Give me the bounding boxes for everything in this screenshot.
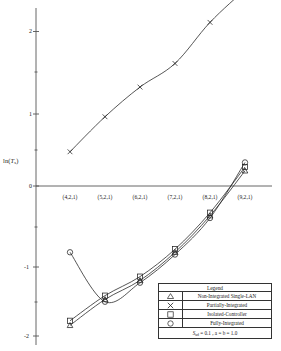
legend-param-ab: a = b = 1.0: [215, 330, 237, 336]
x-data-point: [68, 149, 73, 154]
x-marker-icon: [159, 301, 183, 309]
x-data-point: [103, 114, 108, 119]
series-line: [70, 0, 245, 152]
series-layer: [67, 0, 248, 328]
x-data-point: [138, 85, 143, 90]
circle-marker-icon: [159, 319, 183, 327]
legend-param-value: = 0.1 ,: [199, 330, 214, 336]
series-line: [70, 162, 245, 302]
square-marker-icon: [159, 310, 183, 318]
legend-parameters: Sad = 0.1 , a = b = 1.0: [159, 328, 271, 338]
legend-row-isolated-controller: Isolated-Controller: [159, 310, 271, 319]
triangle-icon: [159, 292, 183, 300]
legend-row-partially-integrated: Partially-Integrated: [159, 301, 271, 310]
legend-label-isolated-controller: Isolated-Controller: [183, 310, 271, 318]
x-data-point: [173, 61, 178, 66]
x-data-point: [208, 20, 213, 25]
legend-label-non-integrated-single-lan: Non-Integrated Single-LAN: [183, 292, 271, 300]
legend-title: Legend: [159, 284, 271, 292]
legend-label-fully-integrated: Fully-Integrated: [183, 319, 271, 327]
legend-row-fully-integrated: Fully-Integrated: [159, 319, 271, 328]
triangle-data-point: [242, 168, 248, 173]
legend: Legend Non-Integrated Single-LAN Partial…: [158, 283, 272, 339]
legend-row-non-integrated-single-lan: Non-Integrated Single-LAN: [159, 292, 271, 301]
chart-container: ln(Ts) 2 1 0 -1 -2 (4,2,1) (5,2,1) (6,2,…: [0, 0, 281, 351]
legend-label-partially-integrated: Partially-Integrated: [183, 301, 271, 309]
series-0: [68, 0, 248, 154]
